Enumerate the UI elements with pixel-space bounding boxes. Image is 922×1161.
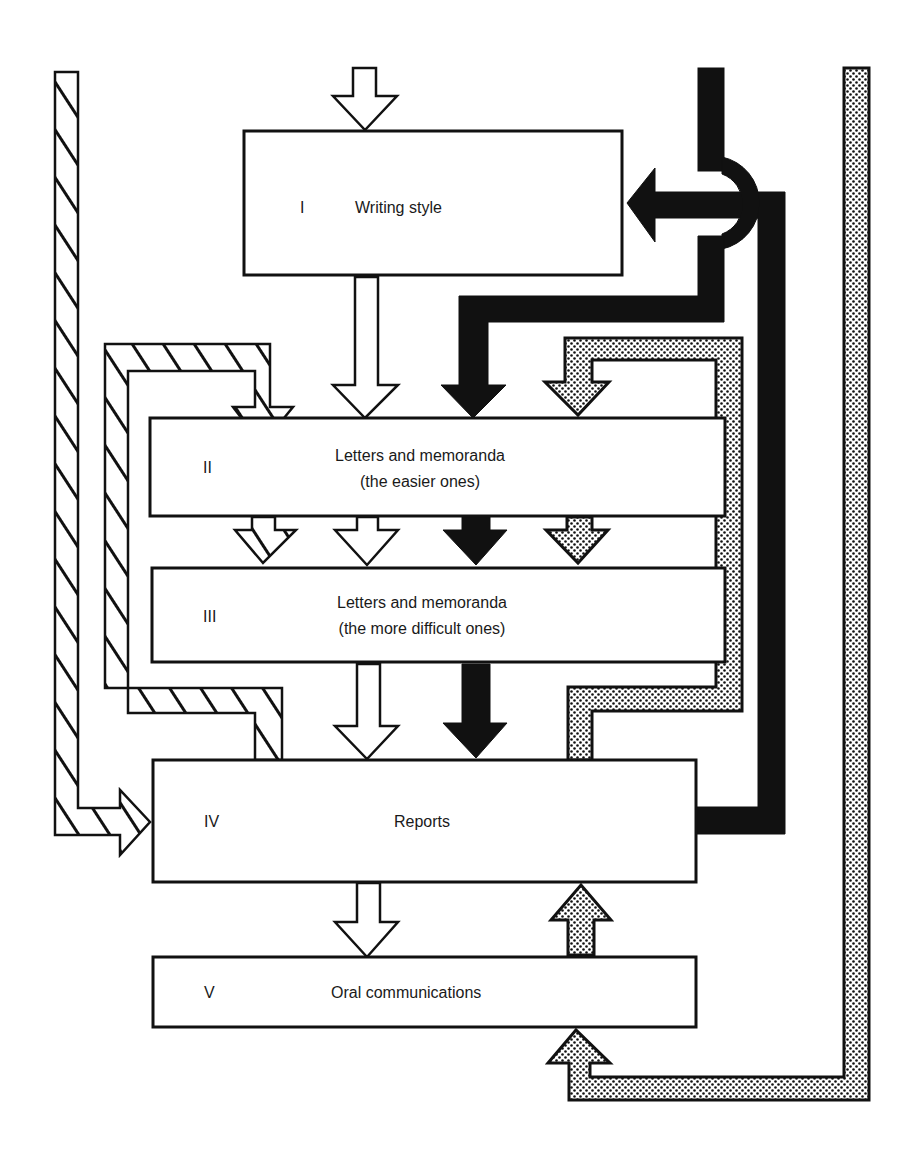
- box-iii-label-line1: Letters and memoranda: [337, 594, 507, 611]
- hatched-arrow-ii-iii: [235, 517, 296, 563]
- box-iv-reports: IV Reports: [153, 760, 696, 882]
- box-i-numeral: I: [300, 199, 304, 216]
- box-v-oral-communications: V Oral communications: [153, 957, 696, 1027]
- box-i-label: Writing style: [355, 199, 442, 216]
- box-iii-label-line2: (the more difficult ones): [339, 620, 506, 637]
- box-v-label: Oral communications: [331, 984, 481, 1001]
- box-v-numeral: V: [204, 984, 215, 1001]
- flow-diagram: I Writing style II Letters and memoranda…: [0, 0, 922, 1161]
- box-iv-label: Reports: [394, 813, 450, 830]
- box-i-writing-style: I Writing style: [244, 131, 622, 275]
- box-ii-letters-easier: II Letters and memoranda (the easier one…: [150, 418, 725, 516]
- dotted-arrow-ii-iii: [546, 517, 608, 563]
- box-ii-label-line1: Letters and memoranda: [335, 447, 505, 464]
- box-ii-label-line2: (the easier ones): [360, 473, 480, 490]
- dotted-arrow-v-to-iv: [551, 885, 611, 955]
- box-iv-numeral: IV: [204, 813, 219, 830]
- box-iii-numeral: III: [203, 608, 216, 625]
- hatched-left-channel: [55, 72, 150, 855]
- box-ii-numeral: II: [203, 459, 212, 476]
- box-iii-letters-difficult: III Letters and memoranda (the more diff…: [152, 568, 725, 662]
